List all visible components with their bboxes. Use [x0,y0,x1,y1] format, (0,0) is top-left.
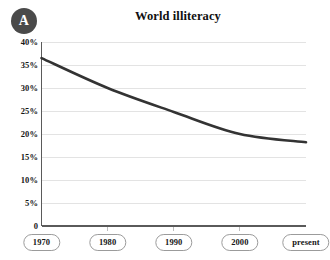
x-tick-pill-1970: 1970 [23,234,60,251]
x-tick-pill-1990: 1990 [155,234,192,251]
x-tick-pill-1980: 1980 [89,234,126,251]
x-tick-pill-present: present [282,234,329,251]
x-tick-pill-2000: 2000 [221,234,258,251]
